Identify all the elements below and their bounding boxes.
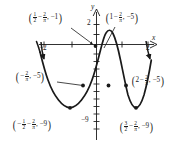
point-mid-right [124, 84, 128, 88]
point-label-mid-right: (2−2π, −5) [131, 75, 165, 87]
curve-end-arrows [41, 41, 150, 59]
paren-close: ) [41, 72, 44, 83]
x-tick-label-neg2: −2 [39, 45, 47, 52]
point-bottom-right [134, 106, 138, 110]
fraction-two-pi: 2π [119, 12, 123, 24]
point-label-bottom-left: (−12−2π, −9) [12, 119, 52, 131]
paren-close: ) [150, 122, 153, 133]
paren-open: ( [106, 13, 109, 24]
y-tick-label-2: 2 [87, 20, 91, 27]
fraction-one-half: 12 [33, 12, 37, 24]
x-axis-label: x [152, 34, 155, 42]
paren-open: ( [120, 122, 123, 133]
fraction-two-pi: 2π [134, 121, 138, 133]
y-axis-label: y [91, 3, 94, 11]
paren-close: ) [135, 13, 138, 24]
x-tick-label-2: 2 [146, 45, 150, 52]
point-top-right [107, 84, 111, 88]
y-tick-label-neg9: −9 [81, 117, 89, 124]
paren-open: ( [16, 72, 19, 83]
fraction-three-halves: 32 [124, 121, 128, 133]
point-label-top-left: (12−2π, −1) [28, 12, 63, 24]
point-label-mid-left: (−2π, −5) [15, 71, 45, 83]
point-label-bottom-right: (32−2π, −9) [119, 121, 154, 133]
fraction-two-pi: 2π [43, 12, 47, 24]
x-axis [39, 41, 157, 48]
point-bottom-left [68, 106, 72, 110]
fraction-one-half: 12 [22, 119, 26, 131]
fraction-two-pi: 2π [32, 119, 36, 131]
fraction-two-pi: 2π [25, 71, 29, 83]
plot-points [68, 44, 138, 110]
fraction-two-pi: 2π [145, 75, 149, 87]
paren-open: ( [132, 76, 135, 87]
paren-close: ) [59, 13, 62, 24]
paren-open: ( [29, 13, 32, 24]
point-top-left [94, 44, 98, 48]
leader-line-top-left [71, 28, 93, 44]
point-label-top-right: (1−2π, −5) [105, 12, 139, 24]
leader-line-mid-left [57, 82, 83, 86]
math-graph-figure: y x −2 2 2 −9 (12−2π, −1) (1−2π, −5) (−2… [0, 0, 194, 154]
point-mid-left [81, 84, 85, 88]
paren-open: ( [13, 120, 16, 131]
paren-close: ) [48, 120, 51, 131]
paren-close: ) [161, 76, 164, 87]
